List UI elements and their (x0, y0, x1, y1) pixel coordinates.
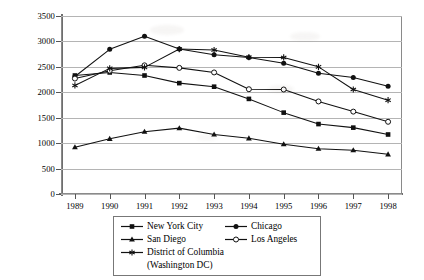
legend-label: San Diego (147, 234, 186, 245)
y-axis-tick-label: 3000 (37, 36, 55, 46)
series-los-angeles (72, 63, 390, 124)
legend-item-san-diego[interactable]: San Diego (120, 234, 186, 245)
y-axis-tick-label: 2000 (37, 87, 55, 97)
data-point-filled-circle (316, 71, 321, 76)
x-axis-tick (145, 194, 146, 199)
data-point-filled-circle (142, 34, 147, 39)
y-axis-tick-label: 3500 (37, 11, 55, 21)
data-point-filled-square (212, 84, 217, 89)
data-point-open-circle (72, 76, 77, 81)
x-axis-tick-label: 1992 (171, 201, 188, 211)
x-axis-tick-label: 1991 (136, 201, 153, 211)
open-circle-legend-icon (224, 234, 248, 245)
x-axis-tick-labels: 1989199019911992199319941995199619971998 (61, 194, 402, 214)
legend-label: Chicago (251, 221, 282, 232)
legend-label: Los Angeles (251, 234, 297, 245)
x-axis-tick-label: 1995 (275, 201, 292, 211)
x-axis-tick-label: 1996 (310, 201, 327, 211)
x-axis-tick-label: 1989 (66, 201, 83, 211)
series-san-diego (72, 125, 391, 156)
y-axis-tick-label: 500 (42, 164, 55, 174)
data-point-filled-square (177, 81, 182, 86)
legend-label: District of Columbia (147, 247, 224, 258)
x-axis-tick-label: 1998 (379, 201, 396, 211)
filled-triangle-legend-icon (120, 234, 144, 245)
data-point-open-circle (316, 99, 321, 104)
data-point-filled-circle (234, 224, 239, 229)
chart-figure: Per 100,000 Population 05001000150020002… (0, 0, 424, 280)
data-point-open-circle (177, 65, 182, 70)
data-point-filled-circle (107, 47, 112, 52)
data-point-filled-circle (281, 61, 286, 66)
data-point-open-circle (234, 237, 239, 242)
data-point-filled-square (247, 97, 252, 102)
data-point-asterisk (72, 82, 77, 88)
filled-square-legend-icon (120, 221, 144, 232)
data-point-filled-square (142, 73, 147, 78)
plot-area (61, 16, 402, 194)
data-point-filled-square (351, 125, 356, 130)
legend-item-new-york-city[interactable]: New York City (120, 221, 203, 232)
y-axis-tick-label: 0 (51, 189, 55, 199)
y-axis-tick-label: 2500 (37, 62, 55, 72)
legend-item-los-angeles[interactable]: Los Angeles (224, 234, 297, 245)
x-axis-tick-label: 1994 (240, 201, 257, 211)
x-axis-tick (318, 194, 319, 199)
data-point-filled-square (130, 224, 135, 229)
filled-circle-legend-icon (224, 221, 248, 232)
y-axis-tick-labels: 0500100015002000250030003500 (22, 16, 55, 194)
legend-item-district-of-columbia[interactable]: District of Columbia (120, 247, 224, 258)
x-axis-tick-label: 1997 (345, 201, 362, 211)
data-point-open-circle (212, 70, 217, 75)
data-point-filled-square (316, 122, 321, 127)
data-point-filled-circle (351, 75, 356, 80)
legend-label: New York City (147, 221, 203, 232)
chart-legend: New York CityChicagoSan DiegoLos Angeles… (113, 216, 321, 276)
x-axis-tick (353, 194, 354, 199)
series-new-york-city (73, 70, 391, 137)
legend-item-chicago[interactable]: Chicago (224, 221, 282, 232)
x-axis-tick (214, 194, 215, 199)
x-axis-tick-label: 1993 (206, 201, 223, 211)
legend-label-continuation: (Washington DC) (147, 260, 213, 270)
data-point-open-circle (351, 109, 356, 114)
y-axis-tick-label: 1000 (37, 138, 55, 148)
data-point-open-circle (281, 87, 286, 92)
data-point-filled-circle (386, 84, 391, 89)
data-point-open-circle (246, 87, 251, 92)
x-axis-tick-label: 1990 (101, 201, 118, 211)
series-district-of-columbia-washington-dc (72, 46, 391, 103)
series-layer (61, 16, 402, 194)
x-axis-tick (388, 194, 389, 199)
data-point-filled-square (386, 132, 391, 137)
x-axis-tick (179, 194, 180, 199)
asterisk-legend-icon (120, 247, 144, 258)
x-axis-tick (284, 194, 285, 199)
data-point-asterisk (385, 97, 390, 103)
x-axis-tick (75, 194, 76, 199)
y-axis-tick-label: 1500 (37, 113, 55, 123)
x-axis-tick (249, 194, 250, 199)
data-point-filled-square (281, 110, 286, 115)
data-point-asterisk (351, 86, 356, 92)
data-point-open-circle (386, 119, 391, 124)
data-point-filled-triangle (176, 125, 182, 130)
x-axis-tick (110, 194, 111, 199)
